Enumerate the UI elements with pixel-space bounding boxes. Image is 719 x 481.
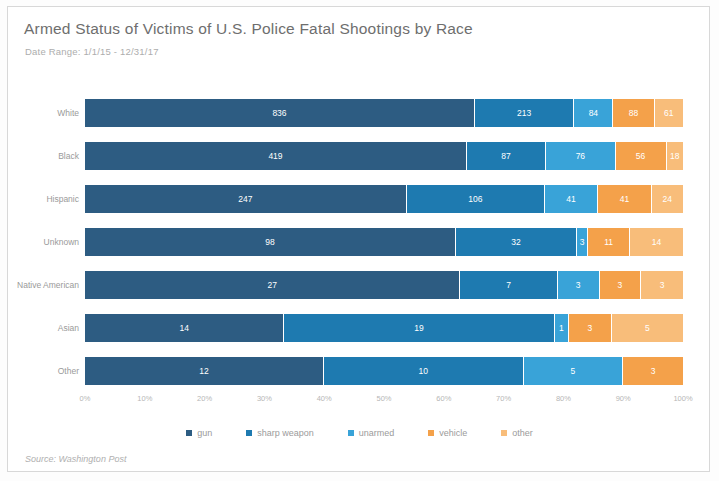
stacked-bar: 1419135 (85, 314, 683, 342)
legend-swatch-icon (348, 430, 354, 436)
page-title: Armed Status of Victims of U.S. Police F… (24, 20, 473, 38)
bar-row: 121053 (85, 357, 683, 385)
x-axis-tick: 50% (376, 394, 391, 403)
bar-segment[interactable]: 14 (85, 314, 284, 342)
bar-row: 836213848861 (85, 99, 683, 127)
bar-segment[interactable]: 24 (652, 185, 683, 213)
bar-segment[interactable]: 3 (558, 271, 600, 299)
x-axis: 0%10%20%30%40%50%60%70%80%90%100% (85, 394, 683, 408)
legend-label: vehicle (439, 428, 467, 438)
bar-segment[interactable]: 18 (667, 142, 683, 170)
source-note: Source: Washington Post (25, 454, 126, 464)
bar-segment[interactable]: 3 (569, 314, 612, 342)
bar-segment[interactable]: 27 (85, 271, 460, 299)
bar-segment[interactable]: 61 (655, 99, 683, 127)
bar-segment[interactable]: 106 (407, 185, 545, 213)
bar-segment[interactable]: 12 (85, 357, 324, 385)
bar-row: 247106414124 (85, 185, 683, 213)
legend-item[interactable]: unarmed (348, 428, 395, 438)
x-axis-tick: 90% (616, 394, 631, 403)
stacked-bar: 983231114 (85, 228, 683, 256)
y-axis-label: Native American (1, 280, 79, 290)
x-axis-tick: 20% (197, 394, 212, 403)
legend-item[interactable]: gun (186, 428, 212, 438)
legend-swatch-icon (501, 430, 507, 436)
x-axis-tick: 30% (257, 394, 272, 403)
legend-item[interactable]: vehicle (428, 428, 467, 438)
chart-legend: gunsharp weaponunarmedvehicleother (0, 428, 719, 438)
x-axis-tick: 10% (137, 394, 152, 403)
chart-subtitle: Date Range: 1/1/15 - 12/31/17 (25, 46, 159, 57)
stacked-bar: 247106414124 (85, 185, 683, 213)
bar-segment[interactable]: 41 (545, 185, 598, 213)
bar-segment[interactable]: 32 (456, 228, 577, 256)
bar-segment[interactable]: 88 (613, 99, 654, 127)
bar-segment[interactable]: 419 (85, 142, 467, 170)
stacked-bar: 41987765618 (85, 142, 683, 170)
bar-segment[interactable]: 5 (612, 314, 683, 342)
bar-segment[interactable]: 41 (598, 185, 651, 213)
y-axis-label: Asian (1, 323, 79, 333)
legend-label: sharp weapon (257, 428, 314, 438)
legend-label: gun (197, 428, 212, 438)
y-axis-label: Other (1, 366, 79, 376)
bar-segment[interactable]: 19 (284, 314, 555, 342)
bar-row: 41987765618 (85, 142, 683, 170)
bar-segment[interactable]: 3 (641, 271, 683, 299)
bar-segment[interactable]: 10 (324, 357, 523, 385)
plot-area: 8362138488614198776561824710641412498323… (85, 92, 683, 392)
x-axis-tick: 100% (673, 394, 692, 403)
bar-segment[interactable]: 247 (85, 185, 407, 213)
bar-segment[interactable]: 56 (616, 142, 667, 170)
x-axis-tick: 60% (436, 394, 451, 403)
bar-row: 983231114 (85, 228, 683, 256)
bar-segment[interactable]: 87 (467, 142, 546, 170)
bar-segment[interactable]: 3 (577, 228, 588, 256)
bar-segment[interactable]: 84 (574, 99, 613, 127)
stacked-bar: 277333 (85, 271, 683, 299)
x-axis-tick: 40% (317, 394, 332, 403)
bar-segment[interactable]: 11 (588, 228, 630, 256)
bar-row: 277333 (85, 271, 683, 299)
bar-segment[interactable]: 836 (85, 99, 475, 127)
stacked-bar: 836213848861 (85, 99, 683, 127)
legend-label: unarmed (359, 428, 395, 438)
bar-segment[interactable]: 5 (524, 357, 624, 385)
x-axis-tick: 80% (556, 394, 571, 403)
legend-swatch-icon (186, 430, 192, 436)
legend-swatch-icon (246, 430, 252, 436)
bar-segment[interactable]: 98 (85, 228, 456, 256)
bar-row: 1419135 (85, 314, 683, 342)
x-axis-tick: 70% (496, 394, 511, 403)
bar-segment[interactable]: 14 (630, 228, 683, 256)
y-axis-labels: WhiteBlackHispanicUnknownNative American… (0, 92, 79, 392)
bar-segment[interactable]: 76 (546, 142, 615, 170)
chart-canvas: Armed Status of Victims of U.S. Police F… (0, 0, 719, 481)
x-axis-tick: 0% (80, 394, 91, 403)
y-axis-label: Black (1, 151, 79, 161)
bar-segment[interactable]: 7 (460, 271, 557, 299)
legend-item[interactable]: sharp weapon (246, 428, 314, 438)
bar-segment[interactable]: 3 (623, 357, 683, 385)
y-axis-label: White (1, 108, 79, 118)
legend-label: other (512, 428, 533, 438)
bar-segment[interactable]: 213 (475, 99, 574, 127)
y-axis-label: Hispanic (1, 194, 79, 204)
legend-item[interactable]: other (501, 428, 533, 438)
legend-swatch-icon (428, 430, 434, 436)
bar-segment[interactable]: 3 (600, 271, 642, 299)
stacked-bar: 121053 (85, 357, 683, 385)
bar-segment[interactable]: 1 (555, 314, 569, 342)
y-axis-label: Unknown (1, 237, 79, 247)
